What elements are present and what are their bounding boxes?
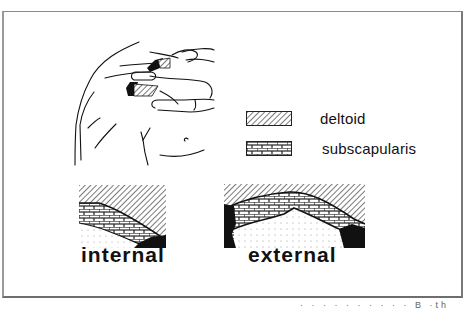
deltoid-hatch-swatch bbox=[246, 111, 292, 126]
legend-item-subscapularis: subscapularis bbox=[246, 140, 416, 157]
shoulder-illustration bbox=[60, 20, 230, 170]
internal-rotation-panel bbox=[79, 185, 166, 248]
subscapularis-brick-swatch bbox=[246, 141, 292, 156]
legend-item-deltoid: deltoid bbox=[246, 110, 366, 127]
external-rotation-panel bbox=[224, 184, 365, 248]
legend-label: subscapularis bbox=[322, 140, 416, 157]
panel-label-external: external bbox=[248, 243, 337, 267]
legend-label: deltoid bbox=[320, 110, 366, 127]
panel-label-internal: internal bbox=[81, 243, 165, 267]
cut-off-caption-text: · · · · · · · · · · B ·th bbox=[300, 300, 449, 310]
